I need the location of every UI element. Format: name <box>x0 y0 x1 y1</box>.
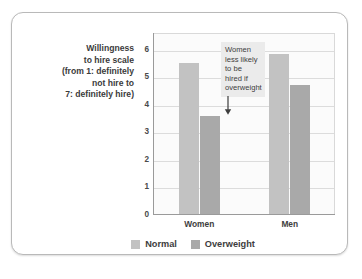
y-axis-title: Willingness to hire scale (from 1: defin… <box>22 43 134 101</box>
chart-annotation-line: less likely <box>225 55 261 65</box>
x-axis-line <box>153 214 335 215</box>
chart-plot-wrapper: 0123456 Womenless likelyto behired ifove… <box>136 33 335 215</box>
chart-annotation: Womenless likelyto behired ifoverweight <box>221 42 265 97</box>
legend-label-normal: Normal <box>145 239 177 249</box>
legend-label-overweight: Overweight <box>205 239 255 249</box>
x-axis-tick-label: Men <box>281 219 298 229</box>
y-axis-tick-label: 2 <box>144 156 149 164</box>
figure-card: Willingness to hire scale (from 1: defin… <box>11 12 348 255</box>
x-axis-tick-label: Women <box>184 219 214 229</box>
y-axis-tick-label: 3 <box>144 128 149 136</box>
legend-item-normal[interactable]: Normal <box>131 239 177 249</box>
chart-annotation-line: to be <box>225 64 261 74</box>
bar-men-normal <box>269 54 289 215</box>
y-axis-tick-label: 4 <box>144 101 149 109</box>
down-arrow-icon <box>223 96 233 115</box>
y-axis-title-line: Willingness <box>22 43 134 55</box>
y-axis-title-line: 7: definitely hire) <box>22 89 134 101</box>
plot-area: Womenless likelyto behired ifoverweight <box>154 33 335 215</box>
legend-item-overweight[interactable]: Overweight <box>191 239 255 249</box>
legend-swatch-normal <box>131 240 140 249</box>
chart-annotation-line: overweight <box>225 83 261 93</box>
chart-legend: Normal Overweight <box>12 239 362 249</box>
bar-men-overweight <box>290 85 310 215</box>
y-axis-title-line: to hire scale <box>22 55 134 67</box>
x-axis-ticks: WomenMen <box>154 219 354 233</box>
y-axis-title-line: not hire to <box>22 78 134 90</box>
bar-women-overweight <box>200 116 220 215</box>
chart-annotation-line: Women <box>225 45 261 55</box>
y-axis-tick-label: 6 <box>144 45 149 53</box>
y-axis-ticks: 0123456 <box>136 33 149 215</box>
y-axis-tick-label: 0 <box>144 211 149 219</box>
y-axis-tick-label: 1 <box>144 183 149 191</box>
bar-women-normal <box>179 63 199 215</box>
y-axis-title-line: (from 1: definitely <box>22 66 134 78</box>
chart-annotation-line: hired if <box>225 74 261 84</box>
y-axis-tick-label: 5 <box>144 73 149 81</box>
legend-swatch-overweight <box>191 240 200 249</box>
